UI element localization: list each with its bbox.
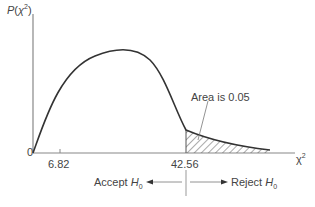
accept-arrow-icon — [146, 180, 153, 185]
y-axis-label: P(χ2) — [7, 3, 32, 16]
tick-label-6.82: 6.82 — [48, 158, 69, 170]
origin-label: 0 — [27, 146, 33, 158]
rejection-region — [186, 130, 270, 153]
reject-label: Reject H0 — [231, 176, 277, 190]
area-annotation: Area is 0.05 — [191, 91, 250, 103]
annotation-leader — [198, 101, 208, 140]
reject-arrow-icon — [221, 180, 228, 185]
accept-label: Accept H0 — [94, 176, 143, 190]
x-axis-label: χ2 — [296, 152, 306, 165]
tick-label-42.56: 42.56 — [171, 158, 199, 170]
